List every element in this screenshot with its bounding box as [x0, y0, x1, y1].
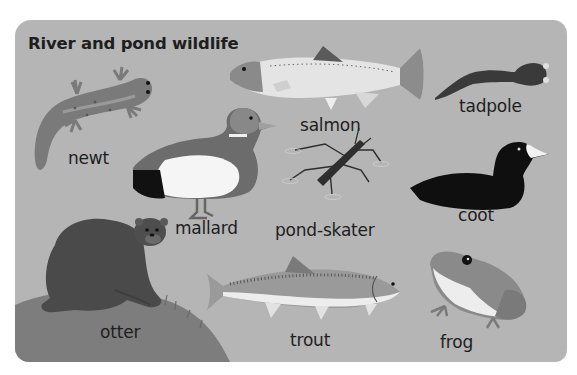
label-coot: coot [458, 205, 494, 225]
otter-illustration [41, 218, 168, 312]
mallard-illustration [133, 108, 277, 218]
wildlife-card: River and pond wildlife newt salmon tadp… [15, 20, 567, 362]
label-newt: newt [68, 148, 109, 168]
label-pond-skater: pond-skater [275, 220, 375, 240]
label-otter: otter [100, 322, 140, 342]
label-frog: frog [440, 332, 473, 352]
pond-skater-illustration [282, 128, 389, 200]
trout-illustration [207, 256, 400, 320]
label-trout: trout [290, 330, 330, 350]
salmon-illustration [230, 46, 424, 110]
coot-illustration [410, 142, 549, 210]
page-title: River and pond wildlife [28, 34, 239, 53]
frog-illustration [430, 252, 526, 328]
tadpole-illustration [435, 63, 549, 100]
label-mallard: mallard [175, 218, 238, 238]
label-tadpole: tadpole [459, 96, 522, 116]
label-salmon: salmon [300, 115, 361, 135]
illustration-layer [15, 20, 567, 362]
